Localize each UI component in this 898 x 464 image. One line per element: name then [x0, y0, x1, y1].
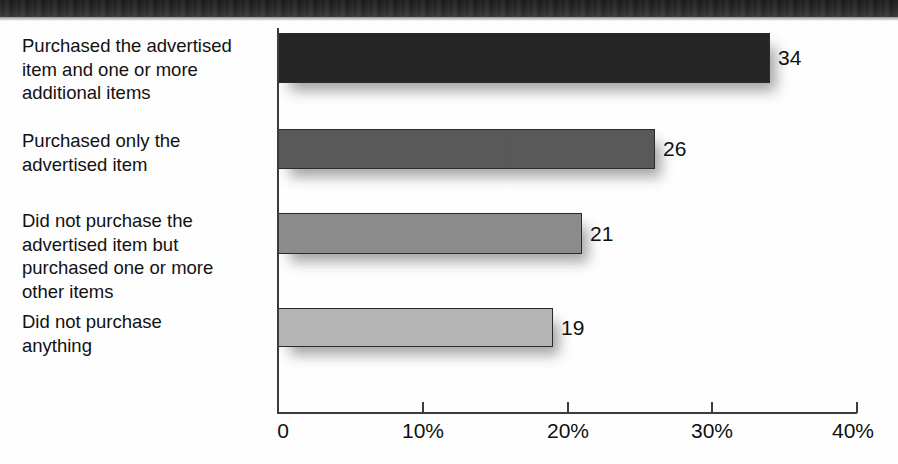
bar-container-2: 21: [278, 213, 858, 254]
x-axis-tick-label-4: 40%: [832, 419, 874, 443]
bar-0[interactable]: [278, 33, 770, 83]
bar-2[interactable]: [278, 213, 582, 254]
bar-container-3: 19: [278, 308, 858, 347]
bar-value-1: 26: [663, 137, 686, 161]
bar-value-3: 19: [561, 316, 584, 340]
bar-value-0: 34: [778, 46, 801, 70]
x-axis-tick-label-0: 0: [277, 419, 289, 443]
x-axis-tick-0: [277, 402, 279, 413]
bar-chart-plot-area: Purchased the advertised item and one or…: [0, 0, 898, 464]
x-axis-tick-4: [856, 402, 858, 413]
bar-3[interactable]: [278, 308, 553, 347]
category-label-1: Purchased only the advertised item: [22, 129, 270, 176]
bar-value-2: 21: [590, 222, 613, 246]
category-label-0: Purchased the advertised item and one or…: [22, 34, 270, 105]
category-label-2: Did not purchase the advertised item but…: [22, 209, 270, 303]
x-axis-tick-label-3: 30%: [691, 419, 733, 443]
y-axis-line: [277, 28, 279, 413]
category-label-3: Did not purchase anything: [22, 310, 270, 357]
bar-1[interactable]: [278, 129, 655, 169]
x-axis-tick-label-2: 20%: [547, 419, 589, 443]
x-axis-tick-3: [711, 402, 713, 413]
x-axis-tick-1: [422, 402, 424, 413]
x-axis-tick-label-1: 10%: [402, 419, 444, 443]
x-axis-tick-2: [567, 402, 569, 413]
bar-container-1: 26: [278, 129, 858, 169]
bar-container-0: 34: [278, 33, 858, 83]
chart-page: Purchased the advertised item and one or…: [0, 0, 898, 464]
